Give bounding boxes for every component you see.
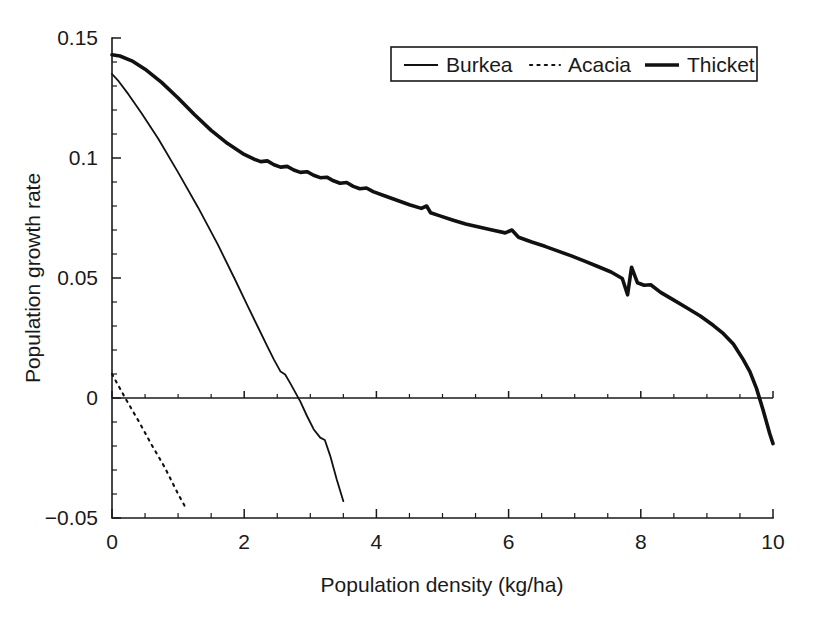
chart-figure: −0.0500.050.10.150246810 Population dens… [0, 0, 820, 620]
x-axis-title: Population density (kg/ha) [321, 573, 564, 596]
series-line-thicket [112, 55, 773, 444]
axes [112, 38, 773, 518]
series-line-acacia [112, 374, 185, 506]
y-axis-title: Population growth rate [21, 173, 44, 383]
x-tick-label: 6 [503, 530, 515, 553]
x-tick-label: 10 [761, 530, 784, 553]
y-tick-label: −0.05 [45, 506, 98, 529]
y-tick-label: 0.05 [57, 266, 98, 289]
legend-label-thicket: Thicket [687, 53, 755, 76]
tick-labels: −0.0500.050.10.150246810 [45, 26, 785, 553]
series-line-burkea [112, 74, 343, 501]
legend-label-acacia: Acacia [568, 53, 631, 76]
y-tick-label: 0.1 [69, 146, 98, 169]
legend-label-burkea: Burkea [446, 53, 513, 76]
population-growth-chart: −0.0500.050.10.150246810 Population dens… [0, 0, 820, 620]
y-tick-label: 0 [86, 386, 98, 409]
y-tick-label: 0.15 [57, 26, 98, 49]
x-tick-label: 2 [238, 530, 250, 553]
zero-reference-line [112, 391, 773, 398]
x-tick-label: 4 [371, 530, 383, 553]
chart-legend: BurkeaAcaciaThicket [391, 47, 757, 81]
data-series-group [112, 55, 773, 506]
axis-spines [112, 38, 773, 518]
x-tick-label: 0 [106, 530, 118, 553]
x-tick-label: 8 [635, 530, 647, 553]
